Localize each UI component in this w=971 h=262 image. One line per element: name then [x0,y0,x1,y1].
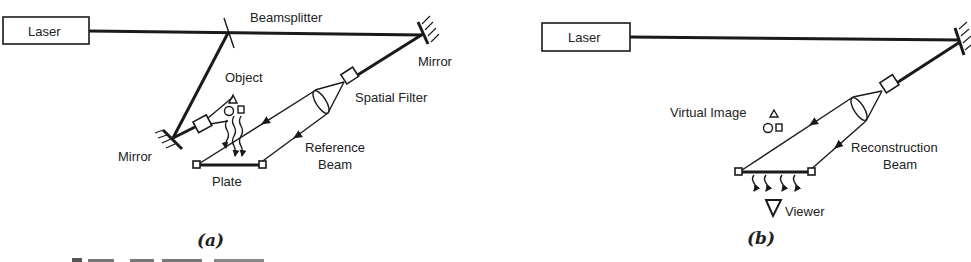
reference-beam-label-2: Beam [318,157,352,172]
mirror-b [955,22,971,55]
viewer-label: Viewer [785,204,825,219]
caption-a: (a) [197,230,224,250]
laser-beam-b [630,37,960,40]
caption-b: (b) [747,228,775,248]
mirror-right-a [418,16,439,44]
beamsplitter-label: Beamsplitter [250,10,323,25]
laser-b: Laser [542,23,630,51]
plate-label: Plate [212,174,242,189]
spatial-filter-b [880,75,899,93]
reconstruction-beam-label-2: Beam [883,157,917,172]
mirror-right-a-label: Mirror [418,54,453,69]
diagram-a: Laser Beamsplitter Mirror Mirror [3,10,453,250]
collimating-lens-b [848,95,870,122]
virtual-image-label: Virtual Image [670,105,746,120]
laser-b-label: Laser [568,30,601,45]
triangle-virtual [770,110,778,117]
viewer-eye-icon [766,200,781,216]
reference-beam-label-1: Reference [305,140,365,155]
object-label: Object [225,70,263,85]
laser-a: Laser [3,17,89,44]
mirror-left-a-label: Mirror [118,149,153,164]
circle-virtual [764,124,773,133]
square-virtual [776,124,782,131]
square-object [238,106,244,113]
diagram-b: Laser [542,22,971,248]
reconstruction-ray-upper-b [739,97,853,172]
laser-a-label: Laser [28,24,61,39]
reference-ray-upper-a [197,90,316,165]
circle-object [225,107,234,116]
cropped-figure-caption [72,258,264,262]
scattered-light-a [226,116,243,156]
reconstruction-beam-path-b [895,42,960,84]
diffracted-light-b [753,175,797,191]
virtual-image-objects [764,110,783,133]
holography-figure: Laser Beamsplitter Mirror Mirror [0,0,971,262]
mirror-left-a [155,130,182,149]
reference-beam-path-a [356,34,423,76]
plate-a [193,161,266,168]
plate-b [735,168,815,175]
laser-beam-a [89,31,422,35]
reconstruction-beam-label-1: Reconstruction [851,140,938,155]
object-a [225,95,245,116]
spatial-filter-label: Spatial Filter [355,90,428,105]
